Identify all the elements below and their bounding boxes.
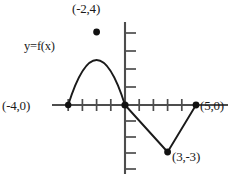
minimum-point-label: (3,-3) bbox=[172, 150, 200, 163]
point-marker-minimum bbox=[164, 149, 171, 156]
y-axis-ticks bbox=[125, 33, 136, 169]
point-marker-origin bbox=[121, 101, 128, 108]
point-marker-peak bbox=[93, 29, 100, 36]
right-zero-label: (5,0) bbox=[200, 99, 224, 112]
point-marker-right-zero bbox=[193, 102, 200, 109]
function-graph-figure: (-2,4) y=f(x) (-4,0) (5,0) (3,-3) bbox=[0, 0, 249, 179]
function-label: y=f(x) bbox=[24, 40, 55, 53]
peak-point-label: (-2,4) bbox=[72, 2, 100, 15]
left-zero-label: (-4,0) bbox=[2, 99, 30, 112]
graph-canvas bbox=[0, 0, 249, 179]
descending-line-segment bbox=[125, 105, 168, 152]
ascending-line-segment bbox=[168, 105, 196, 152]
parabola-segment bbox=[68, 60, 125, 105]
point-marker-left-zero bbox=[65, 102, 71, 108]
